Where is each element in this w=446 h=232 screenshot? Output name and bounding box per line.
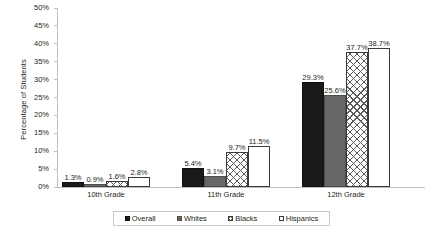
legend-item[interactable]: Overall bbox=[125, 214, 156, 223]
bar[interactable]: 5.4% bbox=[182, 168, 204, 187]
bar-value-label: 38.7% bbox=[368, 39, 389, 48]
bar-slot: 25.6% bbox=[324, 8, 346, 187]
bar[interactable]: 11.5% bbox=[248, 146, 270, 187]
legend-label: Overall bbox=[132, 214, 156, 223]
y-tick: 50% bbox=[0, 3, 57, 13]
bar-slot: 2.8% bbox=[128, 8, 150, 187]
y-tick: 40% bbox=[0, 39, 57, 49]
bar-value-label: 0.9% bbox=[86, 175, 103, 184]
y-tick-label: 25% bbox=[34, 93, 49, 103]
legend-swatch-icon bbox=[177, 216, 182, 221]
y-tick: 15% bbox=[0, 128, 57, 138]
legend-label: Blacks bbox=[235, 214, 257, 223]
bar[interactable]: 38.7% bbox=[368, 48, 390, 187]
y-tick-label: 0% bbox=[38, 182, 49, 192]
bar[interactable]: 1.6% bbox=[106, 181, 128, 187]
bar-value-label: 9.7% bbox=[228, 143, 245, 152]
x-axis-group-label: 10th Grade bbox=[62, 190, 150, 199]
bar[interactable]: 9.7% bbox=[226, 152, 248, 187]
y-tick-label: 50% bbox=[34, 3, 49, 13]
bar-chart: Percentage of Students 50%45%40%35%30%25… bbox=[0, 0, 446, 232]
bar-value-label: 1.3% bbox=[64, 173, 81, 182]
bar[interactable]: 25.6% bbox=[324, 95, 346, 187]
bar[interactable]: 3.1% bbox=[204, 176, 226, 187]
bar-slot: 1.3% bbox=[62, 8, 84, 187]
y-tick-label: 35% bbox=[34, 57, 49, 67]
bar-value-label: 29.3% bbox=[302, 73, 323, 82]
y-tick-label: 5% bbox=[38, 164, 49, 174]
bar-slot: 29.3% bbox=[302, 8, 324, 187]
y-tick-label: 20% bbox=[34, 110, 49, 120]
bar[interactable]: 0.9% bbox=[84, 184, 106, 187]
bar-group: 29.3%25.6%37.7%38.7%12th Grade bbox=[302, 8, 390, 187]
x-axis-group-label: 12th Grade bbox=[302, 190, 390, 199]
legend-item[interactable]: Whites bbox=[177, 214, 207, 223]
bar-group: 5.4%3.1%9.7%11.5%11th Grade bbox=[182, 8, 270, 187]
x-axis-group-label: 11th Grade bbox=[182, 190, 270, 199]
y-tick: 10% bbox=[0, 146, 57, 156]
bar-value-label: 37.7% bbox=[346, 43, 367, 52]
y-tick: 30% bbox=[0, 75, 57, 85]
y-tick-label: 40% bbox=[34, 39, 49, 49]
bar-value-label: 25.6% bbox=[324, 86, 345, 95]
legend-swatch-icon bbox=[125, 216, 130, 221]
chart-legend: OverallWhitesBlacksHispanics bbox=[113, 211, 330, 226]
y-tick-label: 15% bbox=[34, 128, 49, 138]
y-tick-label: 30% bbox=[34, 75, 49, 85]
bar-group: 1.3%0.9%1.6%2.8%10th Grade bbox=[62, 8, 150, 187]
bar-slot: 37.7% bbox=[346, 8, 368, 187]
bar-value-label: 1.6% bbox=[108, 172, 125, 181]
y-tick: 20% bbox=[0, 110, 57, 120]
bar-value-label: 2.8% bbox=[130, 168, 147, 177]
x-axis-line bbox=[57, 187, 425, 188]
bar-value-label: 5.4% bbox=[184, 159, 201, 168]
legend-item[interactable]: Blacks bbox=[228, 214, 257, 223]
bar-slot: 1.6% bbox=[106, 8, 128, 187]
bar-slot: 3.1% bbox=[204, 8, 226, 187]
bar-value-label: 3.1% bbox=[206, 167, 223, 176]
y-tick: 25% bbox=[0, 93, 57, 103]
bar-slot: 9.7% bbox=[226, 8, 248, 187]
legend-swatch-icon bbox=[279, 216, 284, 221]
y-tick: 35% bbox=[0, 57, 57, 67]
bar[interactable]: 2.8% bbox=[128, 177, 150, 187]
legend-label: Hispanics bbox=[286, 214, 319, 223]
legend-label: Whites bbox=[184, 214, 207, 223]
y-tick: 45% bbox=[0, 21, 57, 31]
bar[interactable]: 37.7% bbox=[346, 52, 368, 187]
bar[interactable]: 29.3% bbox=[302, 82, 324, 187]
y-tick: 5% bbox=[0, 164, 57, 174]
plot-area: 1.3%0.9%1.6%2.8%10th Grade5.4%3.1%9.7%11… bbox=[57, 8, 425, 187]
bar[interactable]: 1.3% bbox=[62, 182, 84, 187]
y-tick-label: 45% bbox=[34, 21, 49, 31]
bar-slot: 5.4% bbox=[182, 8, 204, 187]
bar-slot: 11.5% bbox=[248, 8, 270, 187]
bar-slot: 38.7% bbox=[368, 8, 390, 187]
legend-swatch-icon bbox=[228, 216, 233, 221]
y-tick: 0% bbox=[0, 182, 57, 192]
y-tick-label: 10% bbox=[34, 146, 49, 156]
bar-value-label: 11.5% bbox=[249, 137, 270, 146]
legend-item[interactable]: Hispanics bbox=[279, 214, 319, 223]
bar-slot: 0.9% bbox=[84, 8, 106, 187]
